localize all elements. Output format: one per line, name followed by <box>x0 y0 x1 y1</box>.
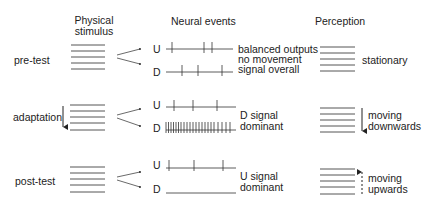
perception-lines-pre <box>320 47 355 71</box>
trace-u-post <box>166 160 236 171</box>
trace-u-adapt <box>166 100 236 111</box>
stimulus-lines-adapt <box>70 105 105 130</box>
perception-lines-adapt <box>320 108 355 132</box>
trace-u-pre <box>166 42 233 53</box>
perception-lines-post <box>320 169 355 194</box>
trace-d-pre <box>166 65 233 76</box>
split-arrows <box>117 49 140 187</box>
stimulus-lines-post <box>70 167 105 192</box>
trace-d-adapt <box>166 122 236 133</box>
stimulus-lines-pre <box>71 45 105 69</box>
diagram-graphics <box>0 0 428 210</box>
